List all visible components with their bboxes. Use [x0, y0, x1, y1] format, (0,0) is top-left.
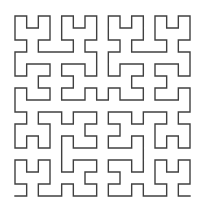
canvas-background: [0, 0, 205, 212]
hilbert-curve-canvas: [0, 0, 205, 212]
figure-root: [0, 0, 205, 212]
